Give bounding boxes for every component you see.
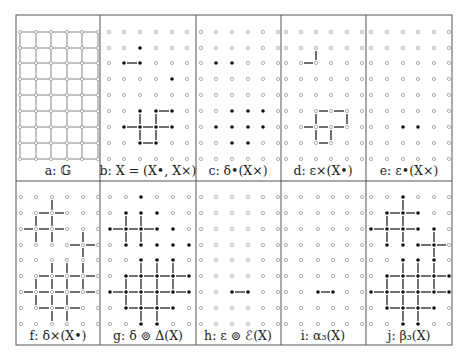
filled-node xyxy=(155,258,159,262)
filled-node xyxy=(122,125,126,129)
hollow-node xyxy=(138,77,141,80)
filled-node xyxy=(154,125,158,129)
hollow-node xyxy=(401,61,404,64)
hollow-node xyxy=(122,77,125,80)
filled-node xyxy=(171,243,175,247)
hollow-node xyxy=(154,30,157,33)
hollow-node xyxy=(360,306,363,309)
filled-node xyxy=(401,322,405,326)
filled-node xyxy=(171,290,175,294)
filled-node xyxy=(139,322,143,326)
hollow-node xyxy=(314,125,317,128)
hollow-node xyxy=(316,274,319,277)
hollow-node xyxy=(261,258,264,261)
hollow-node xyxy=(329,157,332,160)
hollow-node xyxy=(19,322,22,325)
hollow-node xyxy=(360,274,363,277)
hollow-node xyxy=(276,306,279,309)
hollow-node xyxy=(96,306,99,309)
filled-node xyxy=(139,227,143,231)
filled-node xyxy=(416,258,420,262)
hollow-node xyxy=(261,322,264,325)
hollow-node xyxy=(199,77,202,80)
hollow-node xyxy=(316,227,319,230)
hollow-node xyxy=(299,157,302,160)
panel-label-c: c: δ•(X×) xyxy=(208,163,267,178)
filled-node xyxy=(447,290,451,294)
hollow-node xyxy=(314,109,317,112)
hollow-node xyxy=(369,93,372,96)
hollow-node xyxy=(50,290,53,293)
hollow-node xyxy=(432,93,435,96)
hollow-node xyxy=(19,306,22,309)
filled-node xyxy=(416,322,420,326)
hollow-node xyxy=(385,30,388,33)
hollow-node xyxy=(385,93,388,96)
hollow-node xyxy=(331,258,334,261)
hollow-node xyxy=(65,258,68,261)
filled-node xyxy=(416,211,420,215)
hollow-node xyxy=(81,227,84,230)
hollow-node xyxy=(246,258,249,261)
hollow-node xyxy=(214,227,217,230)
hollow-node xyxy=(246,274,249,277)
hollow-node xyxy=(369,157,372,160)
hollow-node xyxy=(138,30,141,33)
hollow-node xyxy=(122,157,125,160)
hollow-node xyxy=(230,46,233,49)
filled-node xyxy=(124,290,128,294)
hollow-node xyxy=(345,141,348,144)
hollow-node xyxy=(199,243,202,246)
hollow-node xyxy=(261,243,264,246)
hollow-node xyxy=(19,258,22,261)
filled-node xyxy=(261,109,265,113)
hollow-node xyxy=(18,141,21,144)
hollow-node xyxy=(96,243,99,246)
hollow-node xyxy=(187,227,190,230)
filled-node xyxy=(155,274,159,278)
hollow-node xyxy=(81,290,84,293)
filled-node xyxy=(369,290,373,294)
hollow-node xyxy=(214,258,217,261)
hollow-node xyxy=(246,77,249,80)
panel-label-e: e: ε•(X×) xyxy=(380,163,439,178)
hollow-node xyxy=(360,195,363,198)
hollow-node xyxy=(284,306,287,309)
hollow-node xyxy=(416,141,419,144)
hollow-node xyxy=(385,195,388,198)
hollow-node xyxy=(284,243,287,246)
hollow-node xyxy=(80,77,83,80)
hollow-node xyxy=(276,141,279,144)
hollow-node xyxy=(199,195,202,198)
hollow-node xyxy=(107,93,110,96)
hollow-node xyxy=(276,227,279,230)
filled-node xyxy=(401,195,405,199)
hollow-node xyxy=(385,46,388,49)
hollow-node xyxy=(345,109,348,112)
hollow-node xyxy=(261,46,264,49)
hollow-node xyxy=(214,306,217,309)
filled-node xyxy=(170,77,174,81)
hollow-node xyxy=(124,322,127,325)
hollow-node xyxy=(331,274,334,277)
hollow-node xyxy=(314,157,317,160)
filled-node xyxy=(154,141,158,145)
hollow-node xyxy=(34,195,37,198)
hollow-node xyxy=(230,258,233,261)
filled-node xyxy=(246,290,250,294)
hollow-node xyxy=(246,195,249,198)
hollow-node xyxy=(299,30,302,33)
filled-node xyxy=(214,61,218,65)
hollow-node xyxy=(214,157,217,160)
hollow-node xyxy=(276,195,279,198)
hollow-node xyxy=(316,322,319,325)
filled-node xyxy=(401,243,405,247)
hollow-node xyxy=(96,322,99,325)
hollow-node xyxy=(246,243,249,246)
hollow-node xyxy=(369,195,372,198)
hollow-node xyxy=(49,30,52,33)
hollow-node xyxy=(284,195,287,198)
filled-node xyxy=(385,211,389,215)
hollow-node xyxy=(360,93,363,96)
filled-node xyxy=(246,125,250,129)
